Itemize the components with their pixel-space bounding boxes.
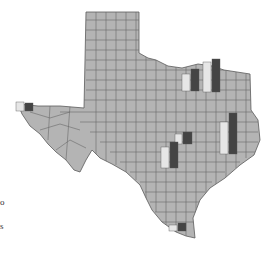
el-paso-light-bar (16, 102, 24, 111)
austin-dark-bar (183, 132, 192, 144)
san-antonio-dark-bar (170, 142, 178, 168)
dallas-west-dark-bar (191, 69, 199, 91)
houston-light-bar (220, 122, 228, 154)
dallas-east-light-bar (203, 62, 211, 92)
houston-dark-bar (229, 113, 237, 154)
rgv-light-bar (169, 225, 177, 231)
texas-county-map (0, 0, 272, 258)
dallas-east-dark-bar (212, 59, 220, 92)
edge-text-2: s (0, 221, 4, 231)
el-paso-dark-bar (25, 103, 33, 111)
rgv-dark-bar (178, 223, 186, 231)
san-antonio-light-bar (161, 147, 169, 168)
dallas-west-light-bar (182, 74, 190, 91)
edge-text-1: o (0, 197, 5, 207)
